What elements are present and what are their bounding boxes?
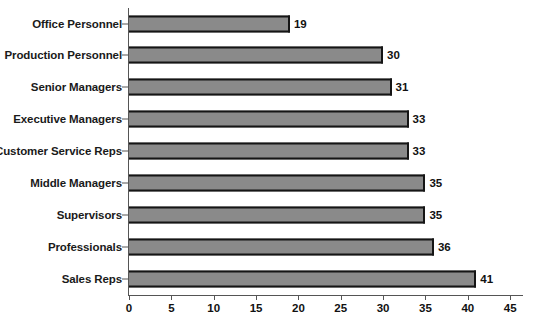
x-axis-tick-label: 5 — [168, 302, 174, 315]
x-axis-tick — [510, 295, 511, 300]
category-label: Professionals — [48, 240, 122, 253]
x-axis-tick-label: 35 — [419, 302, 432, 315]
x-axis-tick-label: 45 — [504, 302, 517, 315]
bar-value-label: 33 — [413, 145, 426, 158]
x-axis-tick-label: 30 — [377, 302, 390, 315]
bar-row: Senior Managers31 — [0, 72, 542, 103]
x-axis-tick — [214, 295, 215, 300]
x-axis-tick — [256, 295, 257, 300]
y-axis-tick — [122, 23, 129, 24]
bar-row: Professionals36 — [0, 231, 542, 262]
x-axis-tick — [468, 295, 469, 300]
x-axis-tick-label: 15 — [250, 302, 263, 315]
category-label: Executive Managers — [13, 113, 122, 126]
x-axis-tick — [383, 295, 384, 300]
bar-row: Executive Managers33 — [0, 104, 542, 135]
x-axis-tick-label: 10 — [207, 302, 220, 315]
category-label: Supervisors — [57, 208, 122, 221]
bar — [129, 175, 425, 192]
y-axis-tick — [122, 214, 129, 215]
x-axis-tick — [425, 295, 426, 300]
x-axis-tick-label: 20 — [292, 302, 305, 315]
bar-row: Office Personnel19 — [0, 8, 542, 39]
bar-value-label: 35 — [429, 208, 442, 221]
bar-row: Customer Service Reps33 — [0, 136, 542, 167]
x-axis-tick-label: 40 — [461, 302, 474, 315]
bar — [129, 143, 409, 160]
bar-value-label: 19 — [294, 17, 307, 30]
bar-chart: Office Personnel19Production Personnel30… — [0, 0, 542, 323]
x-axis-tick — [298, 295, 299, 300]
bar-row: Production Personnel30 — [0, 40, 542, 71]
bar — [129, 47, 383, 64]
plot-area: Office Personnel19Production Personnel30… — [0, 0, 542, 323]
x-axis-tick-label: 0 — [126, 302, 132, 315]
bar-value-label: 31 — [396, 81, 409, 94]
y-axis-tick — [122, 55, 129, 56]
bar-value-label: 33 — [413, 113, 426, 126]
x-axis-tick-label: 25 — [334, 302, 347, 315]
category-label: Sales Reps — [62, 272, 122, 285]
bar — [129, 206, 425, 223]
bar — [129, 79, 392, 96]
x-axis-line — [128, 295, 523, 296]
bar-value-label: 30 — [387, 49, 400, 62]
bar — [129, 270, 476, 287]
bar-value-label: 36 — [438, 240, 451, 253]
y-axis-tick — [122, 151, 129, 152]
y-axis-tick — [122, 183, 129, 184]
bar — [129, 238, 434, 255]
x-axis-tick — [171, 295, 172, 300]
y-axis-tick — [122, 246, 129, 247]
bar-row: Sales Reps41 — [0, 263, 542, 294]
category-label: Office Personnel — [32, 17, 122, 30]
x-axis-tick — [129, 295, 130, 300]
y-axis-tick — [122, 278, 129, 279]
category-label: Customer Service Reps — [0, 145, 122, 158]
y-axis-tick — [122, 87, 129, 88]
y-axis-tick — [122, 119, 129, 120]
bar — [129, 15, 290, 32]
bar-row: Supervisors35 — [0, 199, 542, 230]
category-label: Middle Managers — [30, 177, 122, 190]
category-label: Senior Managers — [31, 81, 122, 94]
bar-value-label: 35 — [429, 177, 442, 190]
bar — [129, 111, 409, 128]
x-axis-tick — [341, 295, 342, 300]
bar-row: Middle Managers35 — [0, 168, 542, 199]
bar-value-label: 41 — [480, 272, 493, 285]
category-label: Production Personnel — [5, 49, 123, 62]
